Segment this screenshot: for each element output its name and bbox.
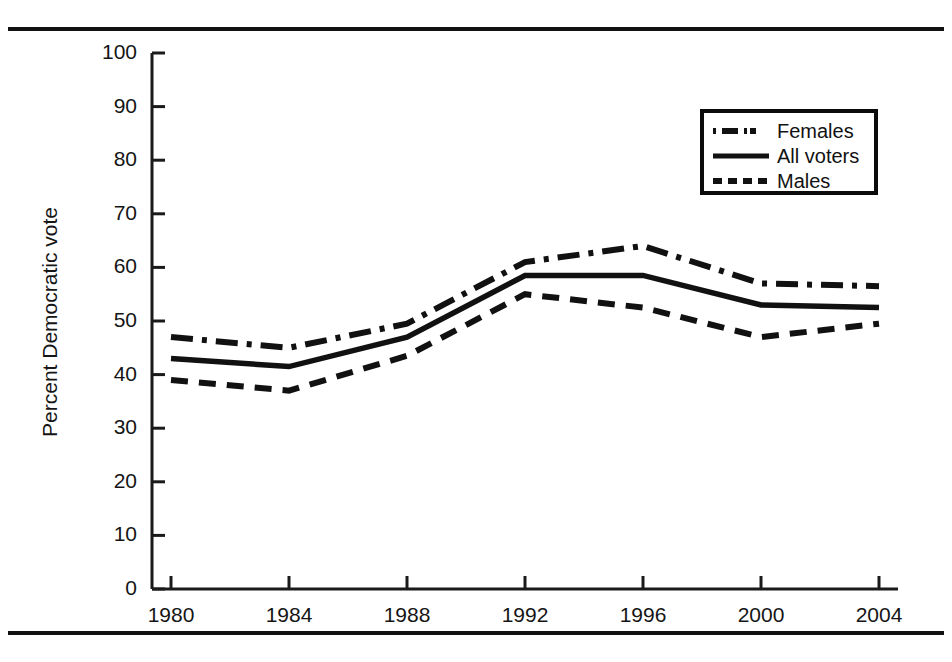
x-tick-label: 1988: [362, 603, 452, 627]
y-tick-label: 90: [89, 94, 137, 118]
x-tick-label: 2000: [716, 603, 806, 627]
series-line-all-voters: [171, 275, 879, 366]
x-tick-label: 1992: [480, 603, 570, 627]
y-tick-label: 50: [89, 308, 137, 332]
x-tick-label: 1980: [126, 603, 216, 627]
y-tick-label: 80: [89, 147, 137, 171]
legend-item-males: Males: [712, 169, 830, 193]
line-chart-plot: [0, 0, 952, 662]
series-line-males: [171, 294, 879, 390]
x-tick-label: 1996: [598, 603, 688, 627]
y-tick-label: 10: [89, 522, 137, 546]
y-axis-ticks: [152, 53, 165, 589]
data-series-group: [171, 246, 879, 391]
legend-label: Males: [777, 171, 830, 191]
x-tick-label: 2004: [834, 603, 924, 627]
y-tick-label: 30: [89, 415, 137, 439]
y-tick-label: 40: [89, 362, 137, 386]
figure-container: Percent Democratic vote 1009080706050403…: [0, 0, 952, 662]
y-tick-label: 100: [89, 40, 137, 64]
y-tick-label: 20: [89, 469, 137, 493]
legend-item-all-voters: All voters: [712, 144, 859, 168]
y-tick-label: 70: [89, 201, 137, 225]
chart-legend: FemalesAll votersMales: [700, 109, 878, 195]
legend-items: FemalesAll votersMales: [704, 113, 874, 191]
legend-item-females: Females: [712, 119, 854, 143]
x-tick-label: 1984: [244, 603, 334, 627]
legend-swatch-dashed-icon: [712, 171, 770, 191]
legend-label: Females: [777, 121, 854, 141]
y-tick-label: 60: [89, 254, 137, 278]
legend-swatch-solid-icon: [712, 146, 770, 166]
x-axis-ticks: [171, 576, 879, 589]
y-tick-label: 0: [89, 576, 137, 600]
legend-swatch-dash-dot-icon: [712, 121, 770, 141]
legend-label: All voters: [777, 146, 859, 166]
